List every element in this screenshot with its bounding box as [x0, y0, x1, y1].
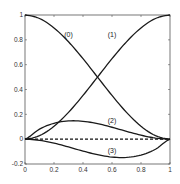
curve-labels: (0)(1)(2)(3) — [64, 31, 116, 154]
y-tick-label: -0.2 — [12, 160, 24, 167]
y-tick-label: 1 — [19, 11, 23, 18]
curve-2 — [25, 121, 170, 139]
axis-tick-labels: 00.20.40.60.81-0.200.20.40.60.81 — [12, 11, 172, 173]
x-tick-label: 0.6 — [107, 166, 116, 173]
curve-1 — [25, 15, 170, 139]
y-tick-label: 0.6 — [14, 61, 23, 68]
curve-label-0: (0) — [64, 31, 73, 39]
x-tick-label: 0.4 — [78, 166, 87, 173]
curves — [25, 15, 170, 158]
curve-label-3: (3) — [108, 147, 117, 155]
y-tick-label: 0.4 — [14, 86, 23, 93]
x-tick-label: 0.2 — [49, 166, 58, 173]
x-tick-label: 0.8 — [136, 166, 145, 173]
hermite-basis-chart: 00.20.40.60.81-0.200.20.40.60.81 (0)(1)(… — [0, 0, 180, 184]
curve-label-2: (2) — [108, 117, 117, 125]
curve-label-1: (1) — [108, 31, 117, 39]
x-tick-label: 0 — [23, 166, 27, 173]
y-tick-label: 0.2 — [14, 111, 23, 118]
curve-3 — [25, 139, 170, 157]
x-tick-label: 1 — [168, 166, 172, 173]
y-tick-label: 0.8 — [14, 36, 23, 43]
y-tick-label: 0 — [19, 135, 23, 142]
